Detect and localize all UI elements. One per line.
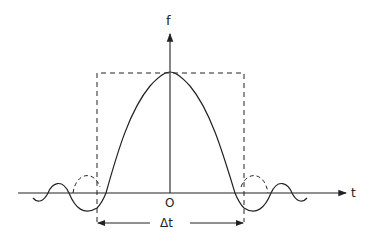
dashed-arc-left	[73, 176, 100, 193]
sinc-diagram: f t O Δt	[0, 0, 370, 247]
origin-label: O	[165, 196, 174, 210]
diagram-canvas: f t O Δt	[0, 0, 370, 247]
delta-t-label: Δt	[160, 216, 173, 230]
dashed-arc-right	[241, 176, 268, 193]
f-axis-label: f	[166, 13, 171, 28]
t-axis-label: t	[351, 186, 356, 200]
